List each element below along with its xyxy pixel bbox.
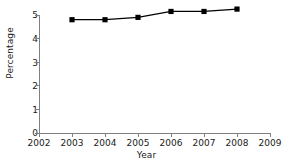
line-chart: Percentage Year 5 4 3 2 1 0 2002 2003 20… — [0, 0, 293, 168]
axis-lines — [39, 15, 270, 133]
data-point-marker — [102, 17, 107, 22]
data-point-marker — [135, 15, 140, 20]
data-point-marker — [69, 17, 74, 22]
series-line-percentage — [72, 9, 237, 20]
plot-area — [0, 0, 293, 168]
y-axis-ticks — [35, 15, 39, 133]
x-axis-ticks — [39, 133, 270, 137]
data-point-marker — [168, 9, 173, 14]
data-point-marker — [234, 7, 239, 12]
data-point-marker — [201, 9, 206, 14]
